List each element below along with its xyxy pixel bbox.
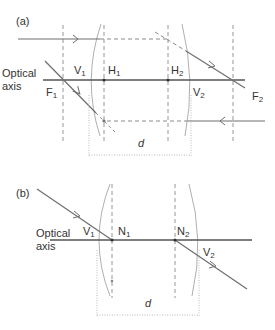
arrow-down-right-icon xyxy=(208,61,215,68)
thick-lens-diagram: (a) Optical axis V1 H1 H2 xyxy=(0,0,275,330)
axis-label-line1: Optical xyxy=(2,67,36,79)
label-f2: F2 xyxy=(252,90,264,104)
label-h1: H1 xyxy=(108,64,121,78)
principal-point-h1 xyxy=(102,78,105,81)
construction-diagonal-top xyxy=(155,32,186,51)
nodal-point-n1 xyxy=(110,238,113,241)
distance-label-d: d xyxy=(145,297,152,309)
label-f1: F1 xyxy=(46,86,58,100)
label-h2: H2 xyxy=(171,64,184,78)
nodal-point-n2 xyxy=(173,238,176,241)
label-v2: V2 xyxy=(203,246,215,260)
outgoing-ray xyxy=(175,240,247,289)
axis-label-line2: axis xyxy=(2,80,22,92)
intersection-point xyxy=(102,119,105,122)
label-n2: N2 xyxy=(177,225,190,239)
axis-label-line2: axis xyxy=(36,240,56,252)
panel-a: (a) Optical axis V1 H1 H2 xyxy=(2,15,265,157)
label-n1: N1 xyxy=(118,225,131,239)
axis-label-line1: Optical xyxy=(36,227,70,239)
principal-point-h2 xyxy=(166,78,169,81)
label-v2: V2 xyxy=(193,86,205,100)
panel-b: (b) Optical axis V1 N1 N2 V2 d xyxy=(16,184,252,317)
refracted-ray-top xyxy=(186,51,245,88)
distance-label-d: d xyxy=(138,137,145,149)
label-v1: V1 xyxy=(74,64,86,78)
panel-a-label: (a) xyxy=(16,15,29,27)
marker-point xyxy=(111,280,114,283)
panel-b-label: (b) xyxy=(16,187,29,199)
construction-diagonal-bottom xyxy=(96,113,116,133)
